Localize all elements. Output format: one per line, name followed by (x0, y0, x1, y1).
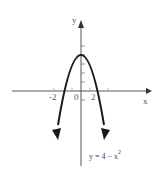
left-curve-arrow-icon (52, 128, 61, 140)
parabola-plot (0, 0, 161, 175)
y-axis-arrow-icon (78, 20, 84, 28)
equation-label: y = 4 − x2 (89, 149, 121, 161)
equation-text: y = 4 − x (89, 152, 118, 161)
x-axis-label: x (143, 97, 148, 106)
x-tick-label-0: 0 (74, 93, 79, 102)
equation-exponent: 2 (118, 149, 121, 155)
x-tick-label-neg2: -2 (49, 93, 57, 102)
x-tick-label-2: 2 (91, 93, 96, 102)
right-curve-arrow-icon (101, 128, 110, 140)
y-axis-label: y (72, 16, 77, 25)
x-axis-arrow-icon (146, 88, 152, 94)
